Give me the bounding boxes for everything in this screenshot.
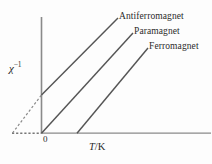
y-axis-label-exponent: −1 bbox=[14, 60, 22, 69]
antiferromagnet-dashed-extension bbox=[13, 95, 42, 133]
origin-tick-label: 0 bbox=[43, 134, 48, 144]
y-axis-label: χ−1 bbox=[9, 60, 21, 74]
x-axis-label: T/K bbox=[89, 141, 105, 152]
series-label-antiferromagnet: Antiferromagnet bbox=[119, 11, 184, 21]
chart-plot-area bbox=[0, 0, 212, 164]
series-label-paramagnet: Paramagnet bbox=[134, 26, 180, 36]
x-axis-label-unit: /K bbox=[95, 141, 106, 152]
curie-weiss-susceptibility-chart: Antiferromagnet Paramagnet Ferromagnet χ… bbox=[0, 0, 212, 164]
ferromagnet-line bbox=[77, 48, 148, 133]
series-label-ferromagnet: Ferromagnet bbox=[149, 41, 199, 51]
antiferromagnet-line bbox=[42, 18, 119, 95]
